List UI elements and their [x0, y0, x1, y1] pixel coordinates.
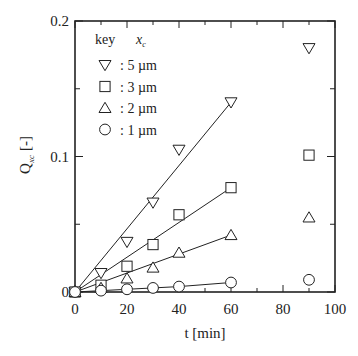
circle-marker: [96, 285, 107, 296]
x-tick-label: 20: [120, 301, 135, 317]
legend-header-var: xc: [135, 32, 146, 49]
legend-header-key: key: [95, 32, 115, 47]
circle-marker: [174, 281, 185, 292]
legend-header-var-sub: c: [142, 40, 146, 49]
y-tick-label: 0: [62, 284, 70, 300]
x-tick-label: 80: [276, 301, 291, 317]
y-tick-label: 0.1: [50, 149, 69, 165]
plot-frame: [75, 21, 335, 292]
legend: keyxc: 5 µm: 3 µm: 2 µm: 1 µm: [95, 32, 157, 138]
x-tick-label: 100: [324, 301, 347, 317]
triangle-down-marker: [225, 98, 237, 108]
y-axis-title-main: Q: [17, 163, 33, 174]
triangle-down-marker: [303, 44, 315, 54]
series-3m: [70, 150, 314, 297]
circle-marker: [226, 277, 237, 288]
x-axis-ticks: 020406080100: [71, 21, 346, 317]
triangle-down-marker: [121, 237, 133, 247]
triangle-up-marker: [99, 102, 111, 112]
triangle-down-marker: [99, 61, 111, 71]
circle-marker: [148, 283, 159, 294]
triangle-down-marker: [147, 198, 159, 208]
square-marker: [148, 239, 158, 249]
plot-border: [75, 21, 335, 292]
y-axis-title-subscript: xc: [26, 155, 36, 164]
x-tick-label: 60: [224, 301, 239, 317]
svg-text:Qxc[-]: Qxc[-]: [17, 136, 36, 174]
legend-entry-label: : 1 µm: [120, 123, 157, 138]
square-marker: [226, 183, 236, 193]
triangle-up-marker: [147, 262, 159, 272]
square-marker: [174, 210, 184, 220]
legend-entry-label: : 3 µm: [120, 80, 157, 95]
circle-marker: [100, 124, 111, 135]
y-axis-title-unit: [-]: [17, 136, 33, 151]
circle-marker: [122, 284, 133, 295]
square-marker: [100, 81, 110, 91]
y-axis-ticks: 00.10.2: [50, 13, 335, 300]
circle-marker: [70, 287, 81, 298]
x-tick-label: 40: [172, 301, 187, 317]
square-marker: [304, 150, 314, 160]
square-marker: [122, 261, 132, 271]
x-tick-label: 0: [71, 301, 79, 317]
legend-entry-label: : 2 µm: [120, 101, 157, 116]
y-axis-title: Qxc[-]: [17, 136, 36, 174]
x-axis-title: t [min]: [184, 325, 225, 341]
circle-marker: [304, 274, 315, 285]
triangle-down-marker: [173, 145, 185, 155]
legend-entry-label: : 5 µm: [120, 58, 157, 73]
triangle-up-marker: [303, 212, 315, 222]
y-tick-label: 0.2: [50, 13, 69, 29]
triangle-up-marker: [225, 229, 237, 239]
chart: 020406080100 00.10.2 keyxc: 5 µm: 3 µm: …: [0, 0, 358, 356]
